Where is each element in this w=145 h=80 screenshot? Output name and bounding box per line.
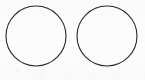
two-circles-figure (0, 0, 145, 80)
left-circle (6, 6, 66, 66)
figure-canvas (0, 0, 145, 80)
right-circle (77, 6, 137, 66)
